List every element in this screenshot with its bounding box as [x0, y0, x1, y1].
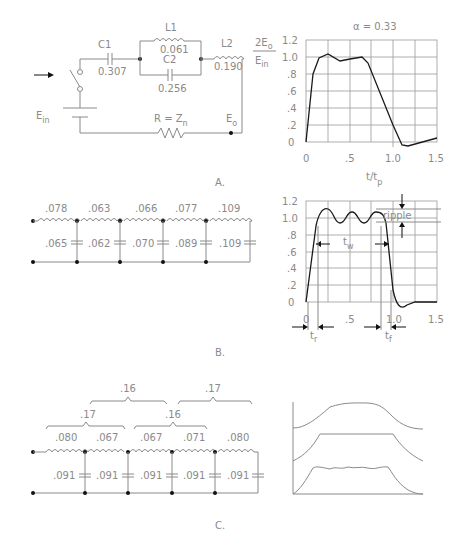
ytick: .4 — [287, 103, 297, 114]
panel-c-label: C. — [215, 520, 225, 531]
capacitor-value: .062 — [88, 238, 110, 249]
capacitor-value: .091 — [53, 470, 75, 481]
l2-value: 0.190 — [214, 61, 243, 72]
ytick: 1.2 — [282, 196, 298, 207]
ytick: 1.2 — [282, 35, 298, 46]
tf-label: tf — [385, 330, 392, 344]
panel-c-waveforms — [293, 402, 423, 494]
inductor-c5 — [218, 450, 254, 453]
inductor-value: .066 — [135, 203, 157, 214]
xtick: .5 — [345, 314, 355, 325]
capacitor-value: .109 — [219, 238, 241, 249]
capacitor-value: .091 — [227, 470, 249, 481]
xtick: .5 — [345, 153, 355, 164]
tr-label: tr — [310, 330, 318, 344]
l1-name: L1 — [165, 22, 177, 33]
inductor-value: .078 — [45, 203, 67, 214]
c2-value: 0.256 — [158, 83, 187, 94]
inductor-c3 — [130, 450, 172, 453]
switch-blade — [70, 70, 80, 87]
capacitor-value: .070 — [132, 238, 154, 249]
source-label: Ein — [36, 110, 50, 125]
inductor-c2 — [88, 450, 124, 453]
panel-b-ladder: .078 .063 .066 .077 .109 .065 .062 .070 … — [31, 203, 256, 264]
ytick: 0 — [288, 297, 294, 308]
l2-name: L2 — [221, 38, 233, 49]
switch-contact-bottom — [78, 87, 83, 92]
output-node — [229, 131, 233, 135]
brace-value: .17 — [80, 409, 96, 420]
ytick: .6 — [287, 86, 297, 97]
inductor-b4 — [167, 219, 209, 222]
resistor-r — [158, 128, 184, 138]
c2-name: C2 — [163, 54, 176, 65]
inductor-l2 — [214, 57, 244, 60]
ytick: .4 — [287, 263, 297, 274]
alpha-parameter: α = 0.33 — [353, 21, 397, 32]
inductor-value: .080 — [227, 432, 249, 443]
panel-b-chart: 1.2 1.0 .8 .6 .4 .2 0 0 .5 1.0 1.5 rippl… — [282, 194, 444, 344]
capacitor-value: .091 — [183, 470, 205, 481]
xtick: 1.0 — [386, 314, 402, 325]
ytick: .6 — [287, 247, 297, 258]
xtick: 1.5 — [428, 153, 444, 164]
panel-a-chart: α = 0.33 2Eo Ein 1.2 1.0 .8 .6 .4 .2 0 0… — [253, 21, 444, 187]
inductor-value: .067 — [140, 432, 162, 443]
inductor-value: .080 — [55, 432, 77, 443]
inductor-b1 — [38, 219, 80, 222]
figure-canvas: C1 0.307 L1 0.061 C2 0.256 L2 0.190 Ein … — [0, 0, 457, 556]
output-label: Eo — [226, 113, 237, 128]
xtick: 1.5 — [428, 314, 444, 325]
response-curve-b — [306, 209, 437, 307]
capacitor-value: .065 — [45, 238, 67, 249]
capacitor-value: .091 — [96, 470, 118, 481]
inductor-b5 — [210, 219, 252, 222]
ylabel-denominator: Ein — [255, 55, 269, 69]
switch-contact-top — [78, 70, 83, 75]
arrowhead-icon — [48, 72, 54, 78]
panel-a-circuit: C1 0.307 L1 0.061 C2 0.256 L2 0.190 Ein … — [34, 22, 244, 138]
panel-a-label: A. — [215, 177, 225, 188]
brace — [46, 422, 125, 429]
c1-name: C1 — [98, 39, 111, 50]
brace — [134, 422, 207, 429]
inductor-l1 — [154, 39, 184, 42]
capacitor-value: .089 — [175, 238, 197, 249]
inductor-b2 — [81, 219, 123, 222]
ytick: .8 — [287, 69, 297, 80]
resistor-label: R = Zn — [154, 113, 188, 128]
inductor-value: .109 — [218, 203, 240, 214]
tw-label: tw — [343, 236, 354, 251]
brace — [90, 397, 167, 404]
ytick: .8 — [287, 230, 297, 241]
brace-value: .16 — [165, 409, 181, 420]
brace — [178, 397, 252, 404]
waveform-middle — [293, 434, 423, 461]
panel-b-label: B. — [215, 347, 225, 358]
inductor-c4 — [174, 450, 216, 453]
inductor-b3 — [124, 219, 166, 222]
xtick: 1.0 — [385, 153, 401, 164]
panel-c-ladder: .16 .17 .17 .16 .080 .067 .067 .071 .080 — [31, 383, 264, 495]
c1-value: 0.307 — [98, 66, 127, 77]
ytick: 1.0 — [282, 213, 298, 224]
inductor-value: .077 — [175, 203, 197, 214]
waveform-bottom — [293, 467, 423, 494]
xlabel: t/tp — [366, 171, 382, 187]
ytick: .2 — [287, 120, 297, 131]
inductor-value: .071 — [183, 432, 205, 443]
capacitor-value: .091 — [140, 470, 162, 481]
ytick: .2 — [287, 280, 297, 291]
inductor-value: .067 — [96, 432, 118, 443]
ylabel-numerator: 2Eo — [255, 37, 273, 51]
inductor-value: .063 — [88, 203, 110, 214]
ytick: 0 — [288, 137, 294, 148]
brace-value: .17 — [205, 383, 221, 394]
waveform-top — [293, 403, 423, 429]
ytick: 1.0 — [282, 52, 298, 63]
response-curve-a — [306, 54, 437, 146]
inductor-c1 — [46, 450, 88, 453]
xtick: 0 — [303, 153, 309, 164]
ripple-label: ripple — [383, 210, 412, 221]
brace-value: .16 — [120, 383, 136, 394]
